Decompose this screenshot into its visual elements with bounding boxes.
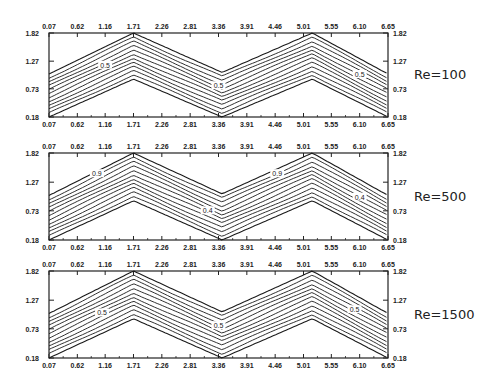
x-tick-label-top: 2.81 <box>183 261 197 268</box>
contour-line <box>49 161 387 203</box>
y-tick-label-left: 0.73 <box>25 86 39 93</box>
x-tick-label-bottom: 2.26 <box>155 362 169 369</box>
x-tick-label-bottom: 6.65 <box>381 244 395 251</box>
x-tick-label-bottom: 6.65 <box>381 121 395 128</box>
contour-label: 0.5 <box>350 306 360 313</box>
x-tick-label-bottom: 1.71 <box>127 121 141 128</box>
x-tick-label-top: 3.36 <box>212 261 226 268</box>
y-tick-label-left: 0.18 <box>25 237 39 244</box>
contour-label: 0.5 <box>214 82 224 89</box>
x-tick-label-top: 3.91 <box>240 143 254 150</box>
x-tick-label-top: 5.01 <box>297 143 311 150</box>
y-tick-label-left: 1.82 <box>25 268 39 275</box>
x-tick-label-bottom: 5.55 <box>325 362 339 369</box>
y-tick-label-left: 0.18 <box>25 114 39 121</box>
x-tick-label-bottom: 1.71 <box>127 362 141 369</box>
reynolds-label: Re=500 <box>414 189 466 204</box>
x-tick-label-bottom: 6.65 <box>381 362 395 369</box>
x-tick-label-bottom: 1.71 <box>127 244 141 251</box>
y-tick-label-left: 1.82 <box>25 30 39 37</box>
x-tick-label-top: 6.10 <box>353 23 367 30</box>
y-tick-label-right: 0.18 <box>393 237 407 244</box>
x-tick-label-top: 0.07 <box>42 143 56 150</box>
x-tick-label-bottom: 2.81 <box>183 121 197 128</box>
y-tick-label-left: 0.73 <box>25 326 39 333</box>
x-tick-label-bottom: 0.62 <box>71 362 85 369</box>
y-tick-label-left: 0.73 <box>25 208 39 215</box>
x-tick-label-bottom: 2.81 <box>183 244 197 251</box>
x-tick-label-top: 1.71 <box>127 143 141 150</box>
x-tick-label-bottom: 1.16 <box>98 121 112 128</box>
y-tick-label-left: 1.27 <box>25 179 39 186</box>
x-tick-label-bottom: 2.26 <box>155 121 169 128</box>
y-tick-label-right: 0.18 <box>393 355 407 362</box>
x-tick-label-bottom: 5.01 <box>297 121 311 128</box>
x-tick-label-top: 3.36 <box>212 23 226 30</box>
x-tick-label-top: 6.65 <box>381 143 395 150</box>
x-tick-label-top: 2.81 <box>183 23 197 30</box>
x-tick-label-top: 0.07 <box>42 23 56 30</box>
x-tick-label-top: 1.71 <box>127 261 141 268</box>
y-tick-label-right: 1.27 <box>393 179 407 186</box>
y-tick-label-right: 1.82 <box>393 150 407 157</box>
contour-label: 0.9 <box>272 170 282 177</box>
x-tick-label-bottom: 1.16 <box>98 362 112 369</box>
x-tick-label-bottom: 5.55 <box>325 244 339 251</box>
x-tick-label-bottom: 3.91 <box>240 244 254 251</box>
y-tick-label-right: 1.27 <box>393 58 407 65</box>
contour-label: 0.5 <box>97 309 107 316</box>
x-tick-label-bottom: 3.36 <box>212 362 226 369</box>
x-tick-label-bottom: 4.46 <box>268 244 282 251</box>
reynolds-label: Re=100 <box>414 67 466 82</box>
y-tick-label-right: 1.27 <box>393 297 407 304</box>
contour-label: 0.9 <box>92 170 102 177</box>
y-tick-label-right: 1.82 <box>393 30 407 37</box>
x-tick-label-bottom: 5.01 <box>297 362 311 369</box>
y-tick-label-right: 0.73 <box>393 208 407 215</box>
x-tick-label-bottom: 3.91 <box>240 362 254 369</box>
contour-label: 0.4 <box>355 194 365 201</box>
y-tick-label-right: 0.73 <box>393 326 407 333</box>
x-tick-label-bottom: 6.10 <box>353 362 367 369</box>
x-tick-label-top: 3.91 <box>240 261 254 268</box>
contour-label: 0.5 <box>214 322 224 329</box>
x-tick-label-top: 6.65 <box>381 261 395 268</box>
contour-panel-2: 0.070.070.620.621.161.161.711.712.262.26… <box>25 143 466 251</box>
x-tick-label-top: 5.01 <box>297 23 311 30</box>
x-tick-label-top: 0.62 <box>71 23 85 30</box>
y-tick-label-right: 0.18 <box>393 114 407 121</box>
x-tick-label-top: 4.46 <box>268 143 282 150</box>
x-tick-label-bottom: 4.46 <box>268 362 282 369</box>
x-tick-label-bottom: 3.36 <box>212 121 226 128</box>
x-tick-label-bottom: 6.10 <box>353 244 367 251</box>
x-tick-label-top: 4.46 <box>268 23 282 30</box>
x-tick-label-top: 2.26 <box>155 143 169 150</box>
x-tick-label-top: 5.55 <box>325 261 339 268</box>
x-tick-label-top: 1.71 <box>127 23 141 30</box>
x-tick-label-top: 1.16 <box>98 143 112 150</box>
x-tick-label-top: 5.01 <box>297 261 311 268</box>
y-tick-label-left: 0.18 <box>25 355 39 362</box>
x-tick-label-bottom: 2.26 <box>155 244 169 251</box>
y-tick-label-left: 1.82 <box>25 150 39 157</box>
x-tick-label-top: 6.10 <box>353 261 367 268</box>
x-tick-label-bottom: 0.07 <box>42 121 56 128</box>
x-tick-label-top: 6.10 <box>353 143 367 150</box>
x-tick-label-top: 0.07 <box>42 261 56 268</box>
reynolds-label: Re=1500 <box>414 307 474 322</box>
contour-label: 0.5 <box>355 71 365 78</box>
x-tick-label-top: 3.36 <box>212 143 226 150</box>
y-tick-label-right: 0.73 <box>393 86 407 93</box>
x-tick-label-bottom: 4.46 <box>268 121 282 128</box>
x-tick-label-top: 3.91 <box>240 23 254 30</box>
x-tick-label-bottom: 0.07 <box>42 362 56 369</box>
x-tick-label-bottom: 1.16 <box>98 244 112 251</box>
contour-label: 0.5 <box>100 62 110 69</box>
contour-panel-3: 0.070.070.620.621.161.161.711.712.262.26… <box>25 261 474 369</box>
x-tick-label-top: 2.26 <box>155 23 169 30</box>
x-tick-label-bottom: 0.62 <box>71 121 85 128</box>
contour-line <box>49 284 387 325</box>
x-tick-label-top: 4.46 <box>268 261 282 268</box>
contour-line <box>49 187 387 228</box>
x-tick-label-bottom: 3.36 <box>212 244 226 251</box>
